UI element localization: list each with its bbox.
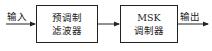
connector-arrows (0, 0, 212, 51)
prefilter-label-line1: 预调制 (52, 11, 82, 24)
msk-modulator-block: MSK 调制器 (120, 5, 178, 43)
prefilter-block: 预调制 滤波器 (36, 5, 98, 43)
modulator-label-line2: 调制器 (134, 24, 164, 37)
prefilter-label-line2: 滤波器 (52, 24, 82, 37)
output-label: 输出 (180, 9, 200, 23)
modulator-label-line1: MSK (137, 11, 160, 24)
input-label: 输入 (7, 9, 27, 23)
